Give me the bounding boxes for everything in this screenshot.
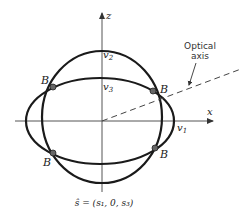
binormal-label-top-right: B xyxy=(159,83,168,96)
binormal-label-bottom-left: B xyxy=(42,156,51,169)
binormal-label-top-left: B xyxy=(40,74,49,87)
caption: ŝ = (s₁, 0, s₃) xyxy=(75,198,134,208)
x-axis-label: x xyxy=(207,106,213,117)
v3-label: v3 xyxy=(103,81,114,94)
binormal-label-bottom-right: B xyxy=(159,148,168,161)
binormal-point-top-right xyxy=(150,88,156,94)
binormal-point-top-left xyxy=(50,84,56,90)
optical-axis-label-line1: Optical xyxy=(184,41,216,51)
optical-axis-line xyxy=(102,69,241,121)
optical-axis-label-line2: axis xyxy=(191,51,209,61)
diagram-svg: z x v2 v3 v1 B B B B Optical axis ŝ = (s… xyxy=(0,0,251,217)
binormal-point-bottom-right xyxy=(152,145,158,151)
wave-surface-diagram: z x v2 v3 v1 B B B B Optical axis ŝ = (s… xyxy=(0,0,251,217)
z-axis-label: z xyxy=(105,10,112,21)
optical-axis-pointer xyxy=(189,63,196,85)
v1-label: v1 xyxy=(177,122,187,135)
